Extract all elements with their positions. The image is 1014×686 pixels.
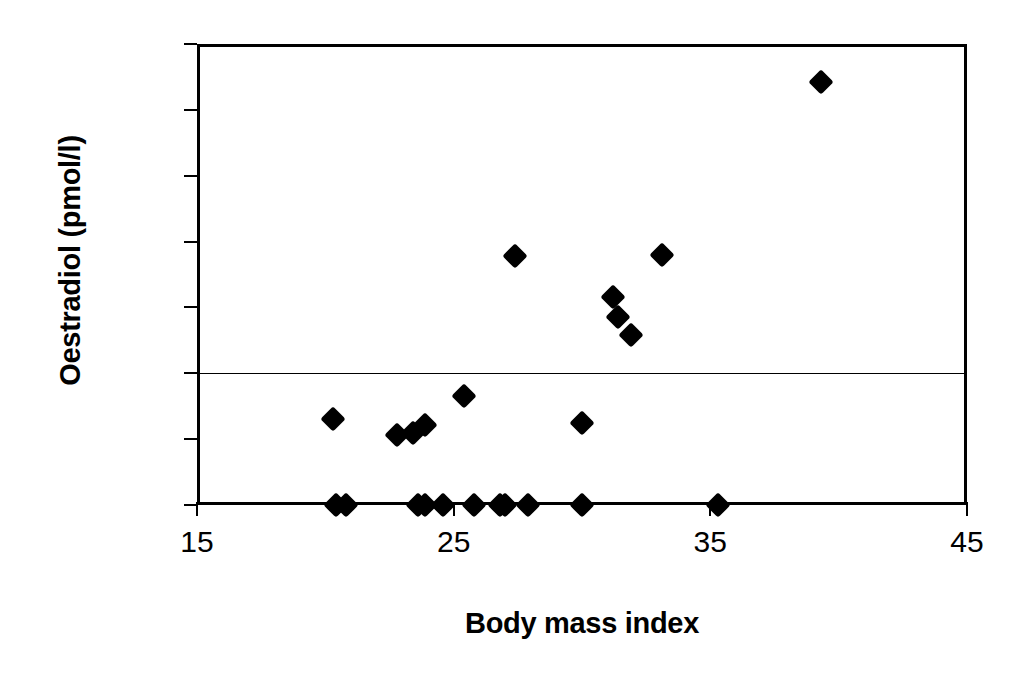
x-tick-label-15: 15 — [137, 526, 257, 558]
x-tick-15 — [196, 502, 198, 516]
gridline-y-100 — [197, 373, 967, 374]
x-axis-title: Body mass index — [197, 607, 967, 640]
y-tick-350 — [184, 43, 197, 45]
y-tick-50 — [184, 438, 197, 440]
data-point — [618, 322, 643, 347]
x-tick-label-45: 45 — [907, 526, 1014, 558]
x-tick-label-25: 25 — [394, 526, 514, 558]
data-point — [569, 411, 594, 436]
plot-top-border — [197, 44, 967, 47]
data-point — [649, 242, 674, 267]
x-tick-45 — [966, 502, 968, 516]
plot-area: 050100150200250300350 15253545 — [197, 44, 967, 505]
scatter-plot-figure: Oestradiol (pmol/l) Body mass index 0501… — [0, 0, 1014, 686]
data-point — [515, 492, 540, 517]
caption-strip — [0, 660, 1014, 686]
x-tick-label-35: 35 — [650, 526, 770, 558]
y-axis-title: Oestradiol (pmol/l) — [54, 51, 87, 471]
plot-right-border — [964, 44, 967, 505]
y-tick-150 — [184, 306, 197, 308]
data-point — [600, 284, 625, 309]
y-tick-300 — [184, 109, 197, 111]
data-point — [320, 407, 345, 432]
y-tick-200 — [184, 241, 197, 243]
data-point — [569, 492, 594, 517]
y-axis-line — [197, 44, 200, 505]
data-point — [808, 69, 833, 94]
y-tick-100 — [184, 372, 197, 374]
data-point — [451, 383, 476, 408]
data-point — [503, 243, 528, 268]
data-point — [461, 492, 486, 517]
y-tick-250 — [184, 175, 197, 177]
